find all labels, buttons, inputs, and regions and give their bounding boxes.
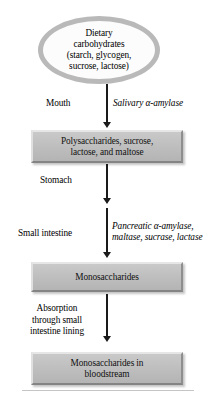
node-polysaccharides: Polysaccharides, sucrose, lactose, and m…: [31, 130, 183, 163]
node-polysaccharides-text: Polysaccharides, sucrose, lactose, and m…: [56, 136, 158, 158]
node-monosaccharides-bloodstream-text: Monosaccharides in bloodstream: [66, 358, 149, 380]
arrow-polysaccharides-to-stomach: [106, 164, 108, 200]
arrow-stomach-to-monosaccharides: [106, 208, 108, 254]
arrow-ellipse-to-polysaccharides: [106, 84, 108, 124]
ellipse-line-2: carbohydrates: [74, 39, 125, 49]
node-monosaccharides-text: Monosaccharides: [70, 272, 144, 283]
label-pancreatic-enzymes: Pancreatic α-amylase, maltase, sucrase, …: [112, 221, 210, 243]
diagram-canvas: Dietary carbohydrates (starch, glycogen,…: [0, 0, 214, 398]
node-dietary-carbohydrates-text: Dietary carbohydrates (starch, glycogen,…: [63, 28, 136, 71]
arrowhead-stomach-to-monosaccharides: [103, 252, 111, 258]
mono-line-1: Monosaccharides: [75, 272, 139, 282]
label-stomach: Stomach: [40, 175, 72, 186]
label-mouth: Mouth: [46, 98, 70, 109]
blood-line-2: bloodstream: [85, 369, 130, 379]
arrowhead-ellipse-to-polysaccharides: [103, 122, 111, 128]
label-absorption: Absorption through small intestine linin…: [13, 303, 101, 338]
label-small-intestine: Small intestine: [18, 228, 72, 239]
ellipse-line-4: sucrose, lactose): [69, 61, 129, 71]
pancreatic-line-2: maltase, sucrase, lactase: [112, 232, 202, 242]
label-salivary-enzyme: Salivary α-amylase: [113, 98, 183, 109]
absorption-line-1: Absorption: [37, 303, 78, 313]
ellipse-line-3: (starch, glycogen,: [67, 50, 132, 60]
absorption-line-2: through small: [32, 315, 82, 325]
node-monosaccharides-bloodstream: Monosaccharides in bloodstream: [31, 352, 183, 385]
absorption-line-3: intestine lining: [30, 326, 84, 336]
blood-line-1: Monosaccharides in: [71, 358, 144, 368]
node-monosaccharides: Monosaccharides: [31, 262, 183, 292]
pancreatic-line-1: Pancreatic α-amylase,: [112, 221, 193, 231]
node-dietary-carbohydrates: Dietary carbohydrates (starch, glycogen,…: [38, 16, 160, 84]
arrow-monosaccharides-to-bloodstream: [106, 294, 108, 338]
arrowhead-polysaccharides-to-stomach: [103, 198, 111, 204]
poly-line-2: lactose, and maltose: [70, 147, 143, 157]
ellipse-line-1: Dietary: [85, 28, 112, 38]
arrowhead-monosaccharides-to-bloodstream: [103, 336, 111, 342]
poly-line-1: Polysaccharides, sucrose,: [61, 136, 153, 146]
bottom-divider: [22, 390, 194, 391]
